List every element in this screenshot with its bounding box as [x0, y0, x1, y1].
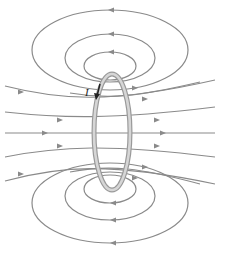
arrow-icon — [57, 118, 63, 123]
arrow-icon — [110, 201, 116, 206]
current-label: I — [84, 86, 90, 98]
field-line — [5, 169, 215, 184]
magnetic-field-diagram: I — [0, 0, 227, 267]
arrow-icon — [110, 241, 116, 246]
arrow-icon — [108, 8, 114, 13]
field-line — [5, 148, 215, 157]
top-field-loops — [32, 8, 188, 91]
arrow-icon — [142, 97, 148, 102]
through-field-lines — [5, 80, 215, 184]
field-loop-bottom-middle — [65, 172, 155, 220]
arrow-icon — [18, 172, 24, 177]
arrow-icon — [154, 144, 160, 149]
arrow-icon — [110, 218, 116, 223]
arrow-icon — [142, 165, 148, 170]
arrow-icon — [57, 144, 63, 149]
field-line — [5, 107, 215, 117]
arrow-icon — [108, 50, 114, 55]
arrow-icon — [160, 131, 166, 136]
arrow-icon — [108, 32, 114, 37]
field-loop-top-outer — [32, 10, 188, 90]
arrow-icon — [42, 131, 48, 136]
arrow-icon — [154, 118, 160, 123]
arrow-icon — [132, 86, 138, 91]
